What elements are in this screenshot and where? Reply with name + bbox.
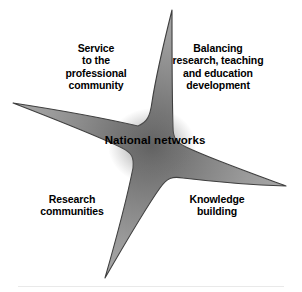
label-balancing-research-teaching-education: Balancing research, teaching and educati… [166,42,270,92]
label-national-networks: National networks [86,134,224,148]
scan-artifact-line [18,286,284,287]
label-knowledge-building: Knowledge building [168,193,266,218]
label-service-to-professional-community: Service to the professional community [52,42,140,92]
diagram-canvas: Service to the professional community Ba… [0,0,302,292]
label-research-communities: Research communities [20,193,124,218]
